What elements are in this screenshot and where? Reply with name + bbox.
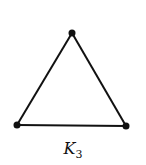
edge-top-bottom-left <box>17 33 72 125</box>
edge-top-bottom-right <box>72 33 126 126</box>
graph-name: K <box>64 139 76 158</box>
edges <box>17 33 126 126</box>
vertex-bottom-right <box>123 123 130 130</box>
vertex-bottom-left <box>14 122 21 129</box>
graph-label: K3 <box>0 139 146 161</box>
graph-subscript: 3 <box>75 148 82 161</box>
edge-bottom <box>17 125 126 126</box>
vertex-top <box>69 30 76 37</box>
vertices <box>14 30 130 130</box>
